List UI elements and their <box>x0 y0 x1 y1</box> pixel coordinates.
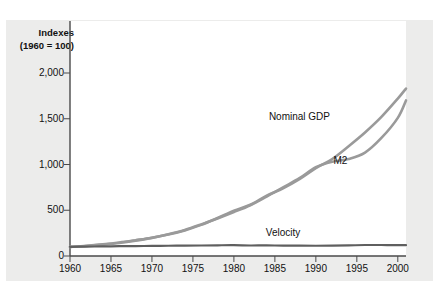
series-line-m2 <box>70 100 406 246</box>
series-label-velocity: Velocity <box>266 227 300 238</box>
axis-lines <box>70 21 406 256</box>
chart-figure: Indexes (1960 = 100) 05001,0001,5002,000… <box>0 0 439 297</box>
series-line-nominal-gdp <box>70 89 406 247</box>
data-series-lines <box>70 89 406 247</box>
series-label-m2: M2 <box>333 155 347 166</box>
tick-marks <box>64 73 398 262</box>
chart-canvas <box>0 0 439 297</box>
series-line-velocity <box>70 245 406 247</box>
series-label-nominal-gdp: Nominal GDP <box>269 111 330 122</box>
